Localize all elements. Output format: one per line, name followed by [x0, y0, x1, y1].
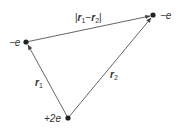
charge-dot-bottom — [65, 115, 70, 120]
bottom-charge-label: +2e — [44, 113, 61, 124]
charge-dot-right — [150, 12, 155, 17]
r2-label: r2 — [110, 69, 118, 81]
r1-label: r1 — [35, 77, 43, 89]
charge-dot-left — [23, 39, 28, 44]
right-charge-label: −e — [160, 10, 172, 21]
r1-minus-r2-label: |r1−r2| — [75, 12, 102, 24]
vector-r1 — [28, 45, 68, 118]
left-charge-label: −e — [9, 37, 21, 48]
vector-r2 — [68, 18, 151, 118]
charge-vector-diagram: −e −e +2e r1 r2 |r1−r2| — [0, 0, 184, 136]
